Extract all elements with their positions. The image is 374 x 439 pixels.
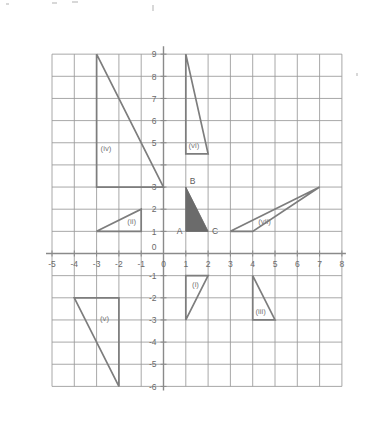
scan-speck (6, 3, 9, 5)
y-tick-label: -5 (149, 359, 157, 369)
y-tick-label: 6 (152, 116, 157, 126)
label-shape-ii: (ii) (127, 217, 136, 226)
y-tick-label: -6 (149, 382, 157, 392)
y-tick-label: 5 (152, 138, 157, 148)
y-tick-label: 8 (152, 72, 157, 82)
label-shape-vii: (vii) (258, 217, 271, 226)
label-shape-vi: (vi) (188, 141, 199, 150)
x-tick-label: -1 (137, 259, 145, 269)
triangle-shape-vi (186, 54, 208, 154)
scan-speck (152, 5, 154, 11)
x-tick-label: 2 (206, 259, 211, 269)
label-shape-v: (v) (100, 314, 109, 323)
x-tick-label: -5 (48, 259, 56, 269)
y-tick-label: -2 (149, 293, 157, 303)
x-tick-label: 5 (273, 259, 278, 269)
scan-speck (356, 73, 358, 76)
coordinate-plane-svg: -5-4-3-2-1012345678 987653210-1-2-3-4-5-… (0, 0, 374, 439)
x-tick-label: 8 (340, 259, 345, 269)
x-tick-label: 0 (161, 259, 166, 269)
y-axis-tick-labels: 987653210-1-2-3-4-5-6 (149, 49, 157, 391)
x-tick-label: 1 (183, 259, 188, 269)
y-tick-label: 0 (152, 242, 157, 252)
y-tick-label: 1 (152, 227, 157, 237)
label-shape-iii: (iii) (255, 307, 266, 316)
x-tick-label: -3 (93, 259, 101, 269)
scan-speck (52, 2, 57, 4)
vertex-c: C (212, 226, 218, 236)
y-tick-label: -1 (149, 271, 157, 281)
y-tick-label: -3 (149, 315, 157, 325)
label-shape-iv: (iv) (101, 144, 112, 153)
y-tick-label: 9 (152, 49, 157, 59)
x-tick-label: 3 (228, 259, 233, 269)
x-tick-label: 7 (317, 259, 322, 269)
label-shape-i: (i) (192, 280, 199, 289)
coordinate-grid-figure: -5-4-3-2-1012345678 987653210-1-2-3-4-5-… (0, 0, 374, 439)
x-tick-label: -2 (115, 259, 123, 269)
y-tick-label: 2 (152, 204, 157, 214)
vertex-a: A (177, 226, 183, 236)
x-tick-label: 4 (250, 259, 255, 269)
x-tick-label: -4 (71, 259, 79, 269)
scan-speck (72, 1, 78, 3)
vertex-b: B (190, 176, 196, 186)
x-tick-label: 6 (295, 259, 300, 269)
triangle-shapes-layer (74, 54, 319, 386)
y-tick-label: 7 (152, 94, 157, 104)
x-axis-tick-labels: -5-4-3-2-1012345678 (48, 259, 344, 269)
y-tick-label: -4 (149, 337, 157, 347)
